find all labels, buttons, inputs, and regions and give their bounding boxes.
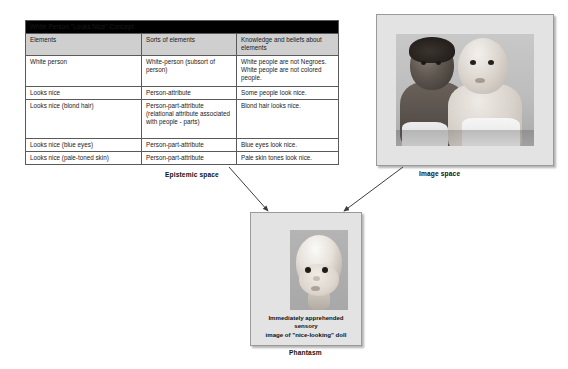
doll-mouth [311, 286, 320, 291]
cell-sort: Person-part-attribute [142, 138, 237, 151]
light-doll-eye-left [470, 60, 476, 65]
dark-doll-eye-right [436, 61, 441, 65]
table-title-row: White Person "Looks Nice" Concept [26, 21, 339, 34]
table-title: White Person "Looks Nice" Concept [26, 21, 339, 34]
table-header-row: Elements Sorts of elements Knowledge and… [26, 34, 339, 55]
doll-eye-left [305, 267, 311, 273]
arrow-image-to-phantasm [344, 167, 403, 211]
table-row: White person White-person (subsort of pe… [26, 55, 339, 86]
doll-head-photo [290, 230, 348, 310]
phantasm-caption-line-1: Immediately apprehended sensory [256, 314, 356, 331]
column-header-elements: Elements [26, 34, 142, 55]
cell-sort: Person-attribute [142, 86, 237, 99]
phantasm-label: Phantasm [289, 349, 322, 356]
table-row: Looks nice (blond hair) Person-part-attr… [26, 99, 339, 138]
cell-knowledge: Blue eyes look nice. [237, 138, 339, 151]
two-dolls-photo [396, 34, 534, 146]
photo-floor-shadow [396, 130, 534, 146]
epistemic-space-panel: White Person "Looks Nice" Concept Elemen… [25, 20, 338, 165]
phantasm-caption-line-2: image of "nice-looking" doll [256, 331, 356, 339]
doll-nose [313, 276, 320, 281]
cell-element: White person [26, 55, 142, 86]
cell-element: Looks nice (pale-toned skin) [26, 152, 142, 165]
dark-doll-hair [409, 37, 455, 63]
image-space-label: Image space [419, 170, 460, 177]
column-header-knowledge: Knowledge and beliefs about elements [237, 34, 339, 55]
cell-sort: Person-part-attribute (relational attrib… [142, 99, 237, 138]
table-row: Looks nice (blue eyes) Person-part-attri… [26, 138, 339, 151]
light-doll-head [458, 38, 508, 94]
cell-knowledge: Some people look nice. [237, 86, 339, 99]
cell-knowledge: Blond hair looks nice. [237, 99, 339, 138]
cell-sort: White-person (subsort of person) [142, 55, 237, 86]
dark-doll-eye-left [421, 61, 426, 65]
cell-sort: Person-part-attribute [142, 152, 237, 165]
cell-knowledge: Pale skin tones look nice. [237, 152, 339, 165]
image-space-box [376, 14, 554, 166]
epistemic-space-label: Epistemic space [165, 171, 219, 178]
concept-table: White Person "Looks Nice" Concept Elemen… [25, 20, 339, 165]
phantasm-box: Immediately apprehended sensory image of… [250, 212, 362, 346]
light-doll-eye-right [488, 60, 494, 65]
cell-knowledge: White people are not Negroes. White peop… [237, 55, 339, 86]
cell-element: Looks nice (blond hair) [26, 99, 142, 138]
table-row: Looks nice (pale-toned skin) Person-part… [26, 152, 339, 165]
light-doll-mouth [475, 78, 485, 83]
doll-eye-right [322, 267, 328, 273]
phantasm-caption: Immediately apprehended sensory image of… [256, 314, 356, 339]
arrow-epistemic-to-phantasm [229, 167, 268, 211]
table-row: Looks nice Person-attribute Some people … [26, 86, 339, 99]
column-header-sorts: Sorts of elements [142, 34, 237, 55]
cell-element: Looks nice [26, 86, 142, 99]
cell-element: Looks nice (blue eyes) [26, 138, 142, 151]
diagram-canvas: White Person "Looks Nice" Concept Elemen… [0, 0, 568, 369]
